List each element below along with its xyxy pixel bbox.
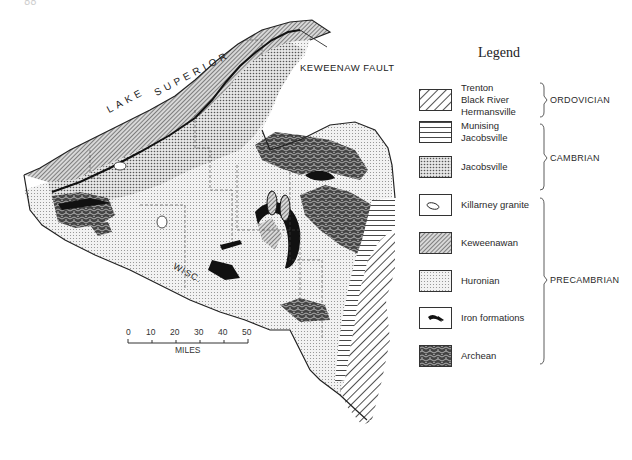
period-braces — [538, 80, 550, 370]
legend-label: Archean — [461, 350, 496, 362]
contorted-dark-swatch-icon — [419, 345, 452, 367]
period-precambrian: PRECAMBRIAN — [550, 275, 619, 285]
legend-label: Killarney granite — [461, 199, 529, 211]
legend-title: Legend — [478, 45, 520, 61]
scale-tick-30: 30 — [194, 327, 203, 337]
scale-tick-40: 40 — [218, 327, 227, 337]
legend-label: Iron formations — [461, 312, 524, 324]
legend-item-keweenawan: Keweenawan — [419, 232, 518, 254]
legend-item-huronian: Huronian — [419, 270, 500, 292]
legend-label: Huronian — [461, 275, 500, 287]
granite-blob-swatch-icon — [419, 194, 452, 216]
legend-item-iron-formations: Iron formations — [419, 307, 524, 329]
scale-tick-10: 10 — [146, 327, 155, 337]
horizontal-lines-swatch-icon — [419, 121, 452, 143]
legend-label: Keweenawan — [461, 237, 518, 249]
legend-item-trenton: Trenton Black River Hermansville — [419, 82, 516, 118]
light-stipple-swatch-icon — [419, 270, 452, 292]
legend-label: Munising Jacobsville — [461, 120, 507, 144]
legend-label: Jacobsville — [461, 161, 507, 173]
iron-streaks-swatch-icon — [419, 307, 452, 329]
keweenaw-fault-label: KEWEENAW FAULT — [300, 62, 395, 73]
period-ordovician: ORDOVICIAN — [550, 95, 610, 105]
scale-tick-20: 20 — [170, 327, 179, 337]
legend-item-munising: Munising Jacobsville — [419, 120, 507, 144]
legend-label: Trenton Black River Hermansville — [461, 82, 516, 118]
scale-unit: MILES — [175, 345, 201, 355]
scale-tick-50: 50 — [242, 327, 251, 337]
scale-tick-0: 0 — [126, 327, 131, 337]
legend-item-archean: Archean — [419, 345, 496, 367]
period-cambrian: CAMBRIAN — [550, 153, 600, 163]
fine-diagonal-swatch-icon — [419, 232, 452, 254]
legend-item-killarney: Killarney granite — [419, 194, 529, 216]
legend-item-jacobsville: Jacobsville — [419, 156, 507, 178]
dense-stipple-swatch-icon — [419, 156, 452, 178]
diagonal-hatch-swatch-icon — [419, 89, 452, 111]
